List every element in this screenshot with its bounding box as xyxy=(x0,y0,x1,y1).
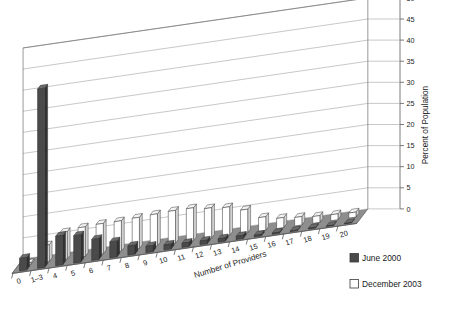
bar-8-december-2003-front xyxy=(168,210,175,244)
bar-7-december-2003 xyxy=(150,210,160,247)
x-tick-label-9: 11 xyxy=(176,252,186,263)
legend-label-december-2003: December 2003 xyxy=(362,279,422,289)
bar-8-june-2000-front xyxy=(164,244,171,250)
x-tick-label-6: 8 xyxy=(124,260,131,270)
bar-2-june-2000-front xyxy=(56,235,63,266)
x-tick-2 xyxy=(48,268,49,273)
y-tick-label-5: 5 xyxy=(407,183,411,192)
chart-container: 05101520253035404550 01–3456789101112131… xyxy=(0,0,456,309)
y-tick-label-10: 10 xyxy=(407,162,415,171)
bar-13-december-2003 xyxy=(259,213,269,231)
bar-9-june-2000-front xyxy=(182,242,189,247)
bar-8-december-2003 xyxy=(168,207,178,245)
y-tick-label-35: 35 xyxy=(407,57,415,66)
bar-2-june-2000 xyxy=(56,231,66,265)
bar-10-december-2003-side xyxy=(212,204,215,238)
x-tick-label-8: 10 xyxy=(158,255,169,266)
bar-15-december-2003-front xyxy=(295,216,302,225)
x-tick-label-5: 7 xyxy=(106,263,113,273)
y-tick-label-25: 25 xyxy=(407,99,415,108)
x-tick-label-14: 16 xyxy=(266,239,277,250)
x-tick-label-18: 20 xyxy=(338,228,349,239)
bar-chart-3d: 05101520253035404550 01–3456789101112131… xyxy=(0,0,456,309)
bar-3-december-2003-side xyxy=(85,223,88,256)
bar-3-june-2000 xyxy=(74,231,84,263)
bar-4-june-2000 xyxy=(92,235,102,261)
bar-0-june-2000-front xyxy=(19,257,26,271)
bar-0-june-2000 xyxy=(19,254,29,271)
bar-10-december-2003 xyxy=(204,204,214,239)
x-tick-4 xyxy=(84,263,85,268)
bar-11-december-2003-side xyxy=(230,203,233,235)
y-axis-title: Percent of Population xyxy=(421,85,430,164)
y-tick-label-40: 40 xyxy=(407,36,415,45)
y-tick-label-50: 50 xyxy=(407,0,415,3)
bar-3-june-2000-side xyxy=(81,231,84,262)
bar-2-june-2000-side xyxy=(63,231,66,264)
y-tick-label-30: 30 xyxy=(407,78,415,87)
x-tick-label-16: 18 xyxy=(302,234,313,245)
bar-12-june-2000-front xyxy=(236,235,243,239)
bar-1-june-2000 xyxy=(38,84,48,268)
bar-5-december-2003-side xyxy=(121,217,124,251)
bar-4-june-2000-side xyxy=(99,235,102,260)
x-tick-label-2: 4 xyxy=(52,271,59,281)
y-tick-label-15: 15 xyxy=(407,141,415,150)
bar-9-december-2003 xyxy=(186,204,196,242)
bar-6-december-2003-side xyxy=(139,214,142,249)
y-tick-label-45: 45 xyxy=(407,15,415,24)
x-tick-label-10: 12 xyxy=(194,249,205,260)
bar-8-december-2003-side xyxy=(176,207,179,244)
x-tick-label-11: 13 xyxy=(212,247,223,258)
bar-14-december-2003-front xyxy=(277,217,284,228)
x-tick-7 xyxy=(138,255,139,260)
x-tick-label-17: 19 xyxy=(320,231,331,242)
bar-3-june-2000-front xyxy=(74,235,81,263)
bar-11-june-2000-front xyxy=(218,238,225,242)
bar-10-december-2003-front xyxy=(204,208,211,239)
bar-18-december-2003-front xyxy=(349,212,356,218)
y-tick-label-20: 20 xyxy=(407,120,415,129)
bar-9-december-2003-front xyxy=(186,208,193,242)
bar-7-june-2000-front xyxy=(146,245,153,252)
x-tick-label-12: 14 xyxy=(230,244,241,255)
legend-label-june-2000: June 2000 xyxy=(362,253,401,263)
legend-swatch-december-2003 xyxy=(350,280,359,289)
bar-5-june-2000 xyxy=(110,237,120,258)
bar-1-june-2000-front xyxy=(38,88,45,268)
bar-12-december-2003-side xyxy=(248,205,251,232)
bar-16-december-2003-front xyxy=(313,216,320,224)
legend-swatch-june-2000 xyxy=(350,254,359,263)
bar-2-december-2003-side xyxy=(67,228,70,259)
x-tick-label-7: 9 xyxy=(142,258,149,268)
bar-6-june-2000-front xyxy=(128,245,135,255)
bar-12-december-2003 xyxy=(240,205,250,233)
x-axis-title: Number of Providers xyxy=(193,249,267,280)
x-tick-3 xyxy=(66,265,67,270)
x-tick-label-1: 1–3 xyxy=(30,272,44,284)
bar-11-december-2003-front xyxy=(222,207,229,237)
x-tick-label-3: 5 xyxy=(70,268,77,278)
bar-4-june-2000-front xyxy=(92,238,99,260)
bar-9-december-2003-side xyxy=(194,204,197,241)
x-tick-label-0: 0 xyxy=(15,276,22,286)
y-axis: 05101520253035404550 xyxy=(368,0,415,214)
bar-10-june-2000-front xyxy=(200,240,207,245)
bar-5-june-2000-front xyxy=(110,241,117,258)
bar-4-december-2003-side xyxy=(103,220,106,254)
bar-17-december-2003-front xyxy=(331,214,338,221)
x-tick-0 xyxy=(12,273,13,278)
x-tick-6 xyxy=(120,258,121,263)
bar-7-december-2003-side xyxy=(157,210,160,246)
x-tick-label-15: 17 xyxy=(284,236,295,247)
x-tick-5 xyxy=(102,260,103,265)
bar-1-june-2000-side xyxy=(45,84,48,267)
y-tick-label-0: 0 xyxy=(407,205,411,214)
bar-12-december-2003-front xyxy=(240,209,247,234)
bar-11-december-2003 xyxy=(222,203,232,237)
chart-legend: June 2000 December 2003 xyxy=(350,253,422,289)
x-tick-label-4: 6 xyxy=(88,266,95,276)
bar-13-december-2003-front xyxy=(259,217,266,232)
